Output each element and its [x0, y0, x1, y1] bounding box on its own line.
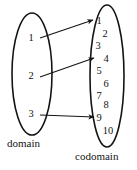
codomain-element: 1 [93, 16, 105, 27]
domain-element: 1 [25, 33, 37, 44]
codomain-element: 10 [102, 126, 114, 137]
domain-element: 2 [25, 71, 37, 82]
codomain-label: codomain [75, 151, 118, 162]
domain-element: 3 [25, 109, 37, 120]
codomain-element: 4 [100, 54, 112, 65]
codomain-element: 2 [99, 29, 111, 40]
codomain-element: 6 [100, 79, 112, 90]
function-mapping-diagram: 123 12345678910 domain codomain [0, 0, 137, 170]
codomain-element: 8 [100, 100, 112, 111]
codomain-element: 3 [92, 41, 104, 52]
codomain-element: 9 [93, 113, 105, 124]
mapping-arrow-2-to-4 [40, 58, 94, 77]
mapping-arrow-1-to-1 [40, 20, 93, 38]
domain-label: domain [7, 138, 40, 149]
mapping-arrow-3-to-9 [40, 115, 94, 117]
codomain-element: 5 [93, 66, 105, 77]
